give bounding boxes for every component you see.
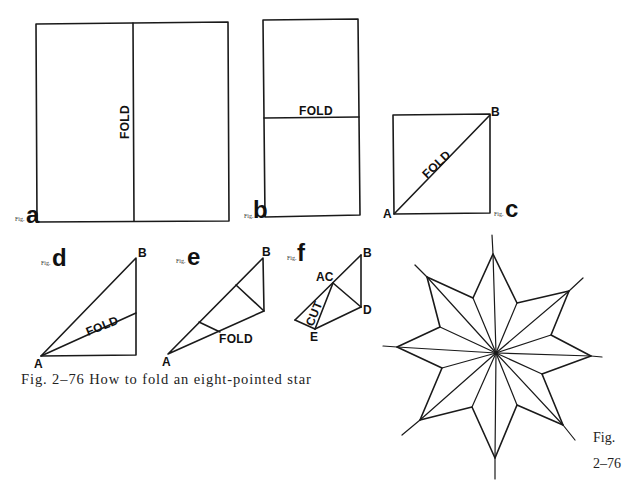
- fig-a-prefix: Fig.: [15, 216, 25, 222]
- fig-f-edge-ac-d: [333, 283, 361, 307]
- eight-pointed-star: [383, 235, 602, 479]
- fig-f-prefix: Fig.: [287, 255, 297, 261]
- star-ext-lower-right: [563, 425, 575, 440]
- star-spoke-bottom: [495, 353, 496, 458]
- fig-c-letter: c: [505, 195, 518, 222]
- star-crease-8: [473, 298, 496, 353]
- fig-d-letter: d: [52, 244, 67, 271]
- star-ext-upper-right: [569, 278, 583, 291]
- fig-f-cut-label: CUT: [303, 299, 326, 328]
- fig-b-letter: b: [253, 196, 268, 223]
- fig-e-letter: e: [187, 243, 200, 270]
- fig-c-point-b: B: [491, 105, 500, 119]
- figure-e: FOLD A B Fig. e: [162, 243, 271, 369]
- fig-f-point-b: B: [363, 246, 372, 260]
- figure-caption: Fig. 2–76 How to fold an eight-pointed s…: [21, 371, 312, 388]
- star-crease-1: [496, 303, 517, 353]
- fig-a-letter: a: [26, 201, 40, 228]
- fig-b-fold-label: FOLD: [299, 104, 333, 118]
- figure-c: FOLD A B Fig. c: [383, 105, 518, 222]
- diagram-canvas: FOLD Fig. a FOLD Fig. b FOLD A B Fig. c …: [0, 0, 629, 490]
- star-spoke-top: [493, 254, 496, 353]
- fig-d-prefix: Fig.: [41, 260, 51, 266]
- fig-e-fold-label: FOLD: [219, 332, 253, 346]
- fig-e-crease-upper: [236, 285, 264, 311]
- side-caption-fig: Fig.: [593, 430, 615, 446]
- star-spoke-lower-right: [496, 353, 563, 425]
- star-crease-5: [472, 353, 496, 407]
- star-ext-right: [591, 356, 602, 357]
- fig-f-point-e: E: [310, 330, 318, 344]
- star-spoke-left: [397, 347, 496, 353]
- fig-e-point-a: A: [162, 355, 171, 369]
- fig-d-point-b: B: [138, 246, 147, 260]
- fig-a-fold-line: [133, 23, 134, 221]
- fig-e-point-b: B: [262, 245, 271, 259]
- fig-f-point-ac: AC: [316, 270, 334, 284]
- figure-d: FOLD A B Fig. d: [34, 244, 147, 371]
- star-ext-left: [383, 346, 397, 347]
- star-crease-2: [496, 335, 551, 353]
- fig-f-point-d: D: [363, 303, 372, 317]
- fig-e-crease-lower: [199, 322, 220, 332]
- fig-d-point-a: A: [34, 357, 43, 371]
- fig-e-prefix: Fig.: [176, 258, 186, 264]
- fig-c-prefix: Fig.: [494, 211, 504, 217]
- star-ext-top: [492, 235, 493, 254]
- star-ext-lower-left: [402, 420, 420, 435]
- fig-a-fold-label: FOLD: [118, 105, 132, 139]
- fig-f-letter: f: [297, 239, 306, 266]
- star-spoke-right: [496, 353, 591, 356]
- fig-d-triangle: [41, 258, 136, 356]
- figure-f: CUT AC B D E Fig. f: [287, 239, 372, 344]
- fig-c-point-a: A: [383, 207, 392, 221]
- fig-d-fold-label: FOLD: [84, 313, 121, 339]
- fig-c-fold-label: FOLD: [419, 148, 453, 182]
- star-ext-upper-left: [415, 265, 427, 277]
- star-spoke-upper-right: [496, 291, 569, 353]
- figure-b: FOLD Fig. b: [244, 19, 360, 223]
- figure-a: FOLD Fig. a: [15, 22, 229, 228]
- side-caption-number: 2–76: [593, 456, 621, 472]
- star-crease-7: [440, 327, 496, 353]
